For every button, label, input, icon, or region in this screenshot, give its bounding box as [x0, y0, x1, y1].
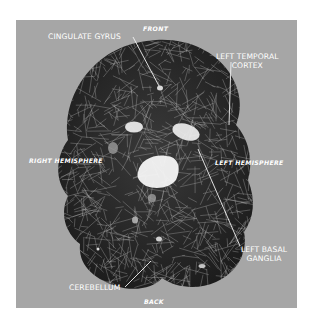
highlight-spot-4: [156, 237, 162, 242]
left-temporal-cortex-label: LEFT TEMPORAL CORTEX: [216, 53, 279, 70]
left-temporal-cortex-label-line2: CORTEX: [216, 62, 279, 71]
highlight-spot-6: [97, 248, 100, 251]
cerebellum-label: CEREBELLUM: [69, 284, 120, 293]
left-hemisphere-label: LEFT HEMISPHERE: [215, 159, 284, 166]
back-label: BACK: [144, 298, 164, 305]
highlight-spot-2: [148, 194, 156, 202]
highlight-spot-5: [199, 264, 206, 268]
left-basal-ganglia-label: LEFT BASAL GANGLIA: [241, 246, 287, 263]
highlight-right-frontal: [125, 122, 143, 133]
left-basal-ganglia-label-line2: GANGLIA: [241, 255, 287, 264]
highlight-spot-1: [108, 142, 118, 154]
right-hemisphere-label: RIGHT HEMISPHERE: [29, 157, 103, 164]
highlight-spot-3: [132, 217, 138, 224]
highlight-cingulate-spot: [157, 86, 163, 91]
brain-figure-panel: FRONT CINGULATE GYRUS LEFT TEMPORAL CORT…: [16, 20, 297, 308]
front-label: FRONT: [143, 25, 168, 32]
cingulate-gyrus-label: CINGULATE GYRUS: [48, 33, 121, 42]
